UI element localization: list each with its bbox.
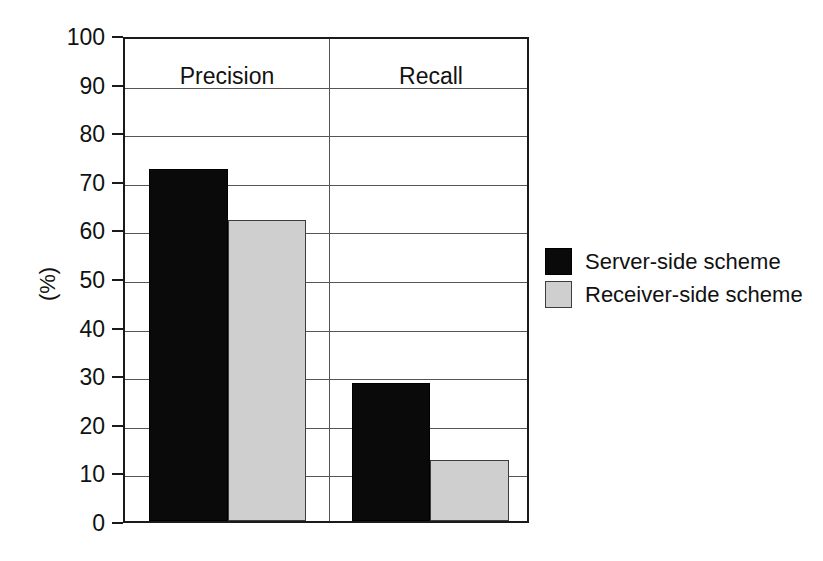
plot-area: PrecisionRecall (123, 37, 529, 523)
bar-recall-series-0 (352, 383, 430, 522)
y-axis-tick-label: 40 (43, 317, 105, 340)
legend-label: Server-side scheme (585, 251, 781, 273)
y-axis-tick-mark (112, 376, 123, 378)
y-axis-tick-label: 60 (43, 220, 105, 243)
y-axis-tick-mark (112, 133, 123, 135)
legend-label: Receiver-side scheme (585, 284, 803, 306)
y-axis-tick-mark (112, 473, 123, 475)
y-axis-tick-label: 80 (43, 123, 105, 146)
legend-swatch-gray-square-icon (545, 281, 572, 308)
y-axis-tick-label: 10 (43, 463, 105, 486)
y-axis-tick-label: 100 (43, 26, 105, 49)
group-divider-line (329, 39, 330, 521)
y-axis-tick-mark (112, 182, 123, 184)
y-axis-tick-mark (112, 85, 123, 87)
y-axis-tick-label: 20 (43, 414, 105, 437)
group-label-precision: Precision (137, 65, 317, 88)
y-axis-tick-mark (112, 230, 123, 232)
legend-swatch-black-square-icon (545, 248, 572, 275)
bar-chart: (%) 1009080706050403020100 PrecisionReca… (0, 0, 823, 561)
bar-recall-series-1 (430, 460, 509, 521)
y-axis-tick-label: 70 (43, 171, 105, 194)
bar-precision-series-1 (228, 220, 306, 521)
chart-legend: Server-side scheme Receiver-side scheme (545, 245, 803, 311)
y-axis-tick-label: 30 (43, 366, 105, 389)
group-label-recall: Recall (341, 65, 521, 88)
y-axis-tick-mark (112, 425, 123, 427)
y-axis-tick-mark (112, 328, 123, 330)
legend-item-receiver-side: Receiver-side scheme (545, 278, 803, 311)
bar-precision-series-0 (149, 169, 228, 521)
gridline (125, 136, 527, 137)
legend-item-server-side: Server-side scheme (545, 245, 803, 278)
y-axis-tick-mark (112, 522, 123, 524)
y-axis-tick-mark (112, 279, 123, 281)
y-axis-tick-label: 50 (43, 269, 105, 292)
y-axis-tick-label: 0 (43, 512, 105, 535)
y-axis-tick-label: 90 (43, 74, 105, 97)
y-axis-tick-mark (112, 36, 123, 38)
